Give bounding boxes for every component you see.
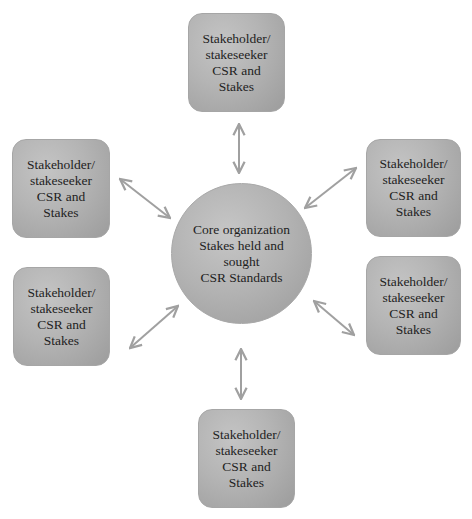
label-line: Stakes (379, 204, 447, 220)
stakeholder-node-label: Stakeholder/ stakeseeker CSR and Stakes (212, 427, 280, 491)
core-organization-label: Core organization Stakes held and sought… (193, 222, 290, 286)
label-line: CSR and (27, 317, 95, 333)
label-line: CSR and (379, 306, 447, 322)
label-line: Stakeholder/ (212, 427, 280, 443)
label-line: Stakeholder/ (27, 285, 95, 301)
core-organization-node: Core organization Stakes held and sought… (171, 183, 312, 324)
arrow-core-right-bottom (314, 301, 354, 335)
stakeholder-node-left-top: Stakeholder/ stakeseeker CSR and Stakes (12, 139, 110, 238)
stakeholder-node-label: Stakeholder/ stakeseeker CSR and Stakes (379, 156, 447, 220)
stakeholder-node-label: Stakeholder/ stakeseeker CSR and Stakes (379, 274, 447, 338)
label-line: Stakeholder/ (379, 274, 447, 290)
label-line: CSR and (379, 188, 447, 204)
label-line: sought (193, 254, 290, 270)
arrow-core-right-top (305, 168, 356, 208)
label-line: Stakes (212, 475, 280, 491)
label-line: Stakes (27, 333, 95, 349)
arrow-core-left-top (120, 179, 170, 218)
label-line: stakeseeker (379, 172, 447, 188)
stakeholder-node-label: Stakeholder/ stakeseeker CSR and Stakes (202, 31, 270, 95)
label-line: stakeseeker (27, 301, 95, 317)
stakeholder-node-right-bottom: Stakeholder/ stakeseeker CSR and Stakes (366, 256, 461, 355)
label-line: Stakeholder/ (27, 157, 95, 173)
stakeholder-node-left-bottom: Stakeholder/ stakeseeker CSR and Stakes (13, 267, 110, 366)
stakeholder-node-right-top: Stakeholder/ stakeseeker CSR and Stakes (366, 139, 461, 237)
stakeholder-node-top: Stakeholder/ stakeseeker CSR and Stakes (188, 13, 285, 112)
label-line: Stakeholder/ (202, 31, 270, 47)
arrow-core-left-bottom (130, 306, 178, 348)
stakeholder-node-bottom: Stakeholder/ stakeseeker CSR and Stakes (198, 409, 295, 508)
label-line: Stakes (27, 205, 95, 221)
label-line: stakeseeker (202, 47, 270, 63)
label-line: CSR and (212, 459, 280, 475)
label-line: stakeseeker (379, 290, 447, 306)
label-line: Stakes (379, 322, 447, 338)
label-line: Core organization (193, 222, 290, 238)
label-line: stakeseeker (212, 443, 280, 459)
label-line: Stakeholder/ (379, 156, 447, 172)
label-line: stakeseeker (27, 173, 95, 189)
label-line: CSR Standards (193, 270, 290, 286)
label-line: Stakes held and (193, 238, 290, 254)
stakeholder-node-label: Stakeholder/ stakeseeker CSR and Stakes (27, 285, 95, 349)
label-line: CSR and (202, 63, 270, 79)
label-line: Stakes (202, 79, 270, 95)
stakeholder-node-label: Stakeholder/ stakeseeker CSR and Stakes (27, 157, 95, 221)
label-line: CSR and (27, 189, 95, 205)
